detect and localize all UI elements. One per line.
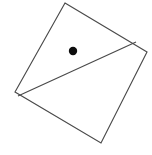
figure-canvas	[0, 0, 152, 155]
quadrilateral-shape	[15, 3, 147, 143]
geometry-figure	[0, 0, 152, 155]
marked-point-dot	[69, 47, 77, 55]
